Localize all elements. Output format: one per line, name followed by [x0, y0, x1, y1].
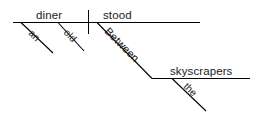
word-article-the: the [182, 81, 200, 99]
sentence-diagram-svg: diner stood skyscrapers an old Between t… [0, 0, 255, 116]
word-subject-diner: diner [36, 9, 62, 21]
word-object-skyscrapers: skyscrapers [170, 65, 233, 77]
sentence-diagram-canvas: diner stood skyscrapers an old Between t… [0, 0, 255, 116]
word-verb-stood: stood [103, 9, 132, 21]
word-preposition-between: Between [103, 25, 142, 64]
